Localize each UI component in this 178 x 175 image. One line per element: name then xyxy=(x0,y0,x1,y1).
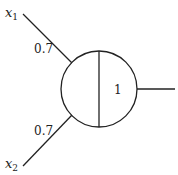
threshold-label: 1 xyxy=(114,83,122,97)
weight-label-2: 0.7 xyxy=(34,124,53,138)
input-label-2: x2 xyxy=(5,156,18,173)
weight-label-1: 0.7 xyxy=(34,42,53,56)
input-label-1: x1 xyxy=(5,5,18,22)
perceptron-diagram: x1 0.7 0.7 x2 1 xyxy=(0,0,178,175)
input-edge-2 xyxy=(23,115,72,166)
